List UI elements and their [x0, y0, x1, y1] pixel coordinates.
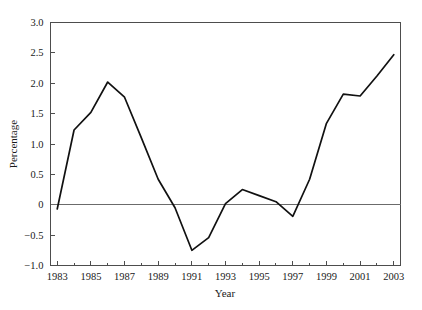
x-tick-label-3: 1989: [148, 271, 169, 282]
x-tick-label-4: 1991: [181, 271, 202, 282]
y-tick-label-8: −1.0: [24, 260, 43, 271]
x-axis-tick-labels: 1983198519871989199119931995199719992001…: [47, 271, 405, 282]
chart-background: [0, 0, 422, 310]
x-tick-label-0: 1983: [47, 271, 68, 282]
y-tick-label-0: 3.0: [30, 17, 43, 28]
chart-figure: 3.02.52.01.51.00.50−0.5−1.0 198319851987…: [0, 0, 422, 310]
y-tick-label-3: 1.5: [30, 108, 43, 119]
y-tick-label-4: 1.0: [30, 139, 43, 150]
y-tick-label-6: 0: [38, 199, 43, 210]
y-tick-label-2: 2.0: [30, 78, 43, 89]
line-chart: 3.02.52.01.51.00.50−0.5−1.0 198319851987…: [0, 0, 422, 310]
x-tick-label-10: 2003: [383, 271, 404, 282]
x-tick-label-1: 1985: [80, 271, 101, 282]
x-axis-title: Year: [215, 287, 236, 299]
y-tick-label-5: 0.5: [30, 169, 43, 180]
x-tick-label-7: 1997: [282, 271, 303, 282]
x-tick-label-5: 1993: [215, 271, 236, 282]
x-tick-label-8: 1999: [316, 271, 337, 282]
y-tick-label-1: 2.5: [30, 47, 43, 58]
x-tick-label-6: 1995: [249, 271, 270, 282]
y-tick-label-7: −0.5: [24, 230, 43, 241]
x-tick-label-2: 1987: [114, 271, 135, 282]
x-tick-label-9: 2001: [350, 271, 371, 282]
y-axis-title: Percentage: [7, 120, 19, 168]
